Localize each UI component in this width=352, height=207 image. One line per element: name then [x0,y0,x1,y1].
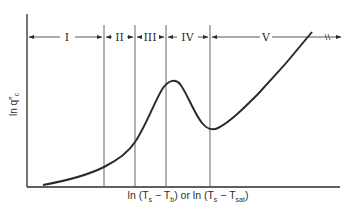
region-V-span [212,34,341,40]
region-label-I: I [65,31,69,44]
diagram-canvas: I II III IV V [0,0,352,207]
region-label-II: II [115,31,124,44]
x-label-sub: sat [236,196,245,203]
region-label-V: V [261,31,271,44]
x-axis-label: ln (Ts − Tb) or ln (Ts − Tsat) [0,189,352,203]
boiling-curve-diagram: I II III IV V ln q″c ln (Ts − Tb) or ln … [0,0,352,207]
x-label-part: − T [152,189,170,201]
x-label-part: − T [217,189,235,201]
region-label-III: III [143,31,156,44]
y-axis-label-text: ln q″ [8,96,19,116]
y-axis-label-subscript: c [13,92,20,96]
y-axis-label: ln q″c [2,72,24,122]
svg-text:ln q″c: ln q″c [8,92,20,116]
boiling-curve-line [43,32,312,185]
region-label-IV: IV [181,31,194,44]
x-label-part: ) [245,189,249,201]
x-label-part: ) or ln (T [174,189,214,201]
x-label-part: ln (T [128,189,149,201]
